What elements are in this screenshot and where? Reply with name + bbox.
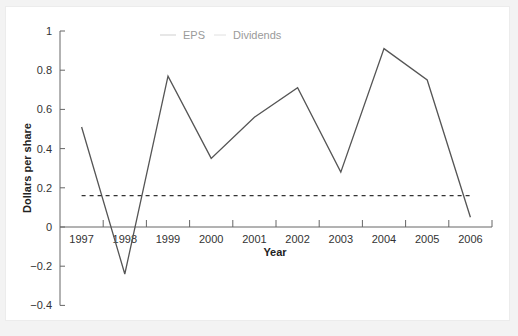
y-tick-label: 1 (46, 25, 52, 37)
x-tick-label: 2002 (285, 233, 309, 245)
x-tick-label: 1999 (156, 233, 180, 245)
y-tick-label: 0.8 (37, 64, 52, 76)
y-tick-label: 0.6 (37, 103, 52, 115)
x-tick-label: 2003 (329, 233, 353, 245)
eps-line (82, 49, 471, 274)
x-tick-label: 2001 (242, 233, 266, 245)
x-tick-label: 1997 (69, 233, 93, 245)
y-tick-label: 0.2 (37, 182, 52, 194)
x-tick-label: 2000 (199, 233, 223, 245)
legend-dividends-label: Dividends (233, 29, 282, 41)
legend: EPS Dividends (160, 29, 282, 41)
y-tick-label: 0.4 (37, 143, 52, 155)
x-axis-title: Year (263, 246, 287, 258)
x-tick-label: 2005 (415, 233, 439, 245)
y-axis: 10.80.60.40.20−0.2−0.4 (30, 25, 65, 311)
series-group (82, 49, 471, 274)
y-tick-label: −0.2 (30, 260, 52, 272)
eps-dividends-line-chart: 10.80.60.40.20−0.2−0.4 19971998199920002… (0, 0, 518, 336)
y-axis-title: Dollars per share (21, 123, 33, 213)
x-tick-label: 2004 (372, 233, 396, 245)
legend-eps-label: EPS (183, 29, 205, 41)
x-axis: 1997199819992000200120022003200420052006 (60, 220, 492, 245)
y-tick-label: −0.4 (30, 299, 52, 311)
y-tick-label: 0 (46, 221, 52, 233)
x-tick-label: 2006 (458, 233, 482, 245)
